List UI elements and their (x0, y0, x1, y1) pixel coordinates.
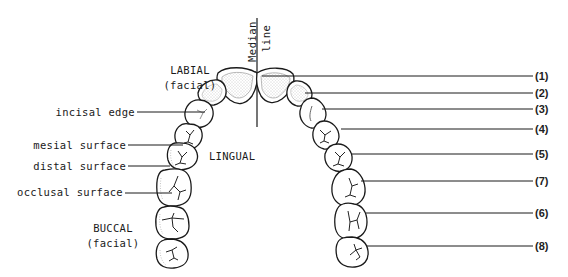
labial-facial-label: (facial) (155, 79, 225, 91)
median-label-line2: line (260, 25, 272, 52)
callout-number-5: (5) (535, 148, 548, 160)
tooth-left-second-molar (156, 206, 189, 239)
callout-number-8: (8) (535, 240, 548, 252)
callout-distal-surface: distal surface (33, 160, 126, 172)
tooth-right-third-molar (336, 237, 368, 267)
tooth-right-second-molar (335, 203, 367, 239)
callout-number-4: (4) (535, 123, 548, 135)
callout-number-2: (2) (535, 87, 548, 99)
callout-number-3: (3) (535, 103, 548, 115)
callout-occlusal-surface: occlusal surface (17, 186, 123, 198)
callout-number-1: (1) (535, 70, 548, 82)
lingual-label: LINGUAL (209, 150, 255, 162)
callout-mesial-surface: mesial surface (33, 139, 126, 151)
buccal-facial-label: (facial) (78, 237, 148, 249)
callout-number-7: (7) (535, 175, 548, 187)
tooth-right-second-premolar (325, 144, 352, 171)
callout-incisal-edge: incisal edge (56, 106, 135, 118)
callout-number-6: (6) (535, 207, 548, 219)
labial-label: LABIAL (160, 64, 220, 76)
tooth-left-third-molar (156, 239, 188, 268)
tooth-left-second-premolar (167, 143, 197, 170)
buccal-label: BUCCAL (83, 222, 143, 234)
tooth-left-canine (185, 100, 213, 128)
tooth-left-first-molar (157, 169, 191, 206)
median-label: Median (246, 21, 258, 62)
tooth-right-first-molar (332, 169, 365, 206)
